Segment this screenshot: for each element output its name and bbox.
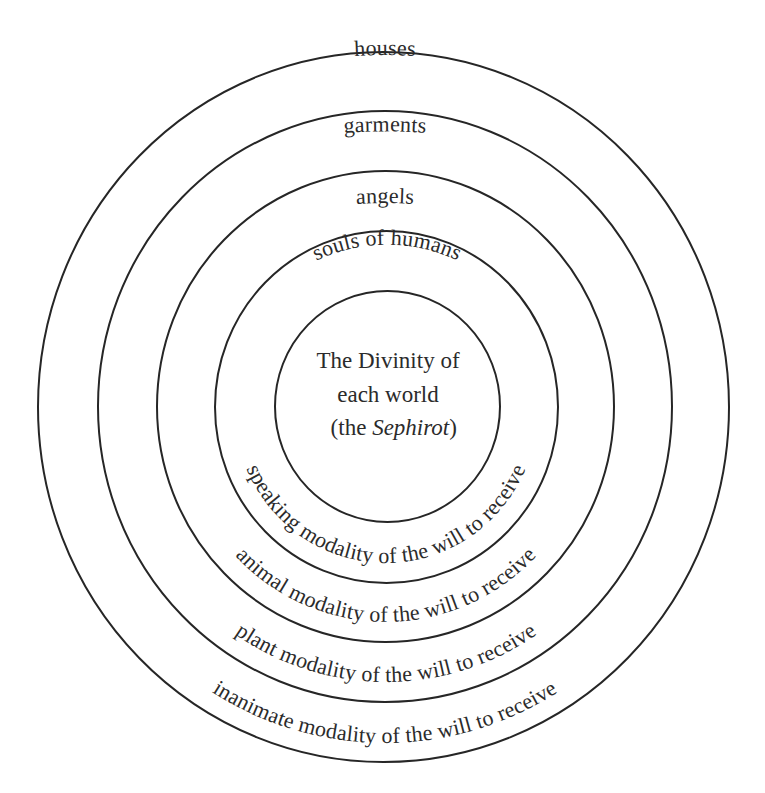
label-plant-modality: plant modality of the will to receive bbox=[0, 0, 671, 687]
label-angels-text: angels bbox=[355, 183, 415, 209]
center-line-3: (the Sephirot) bbox=[302, 415, 474, 440]
center-line-2: each world bbox=[337, 382, 439, 407]
label-garments-text: garments bbox=[342, 111, 427, 138]
center-line-1: The Divinity of bbox=[316, 348, 459, 373]
label-souls-of-humans: souls of humans bbox=[0, 0, 525, 305]
label-houses: houses bbox=[0, 0, 627, 113]
center-line-3-prefix: (the bbox=[331, 415, 373, 440]
label-angels: angels bbox=[0, 0, 547, 233]
ring-outer-houses bbox=[38, 52, 729, 762]
ring-souls-of-humans bbox=[215, 231, 558, 583]
label-speaking-modality-text: speaking modality of the will to receive bbox=[242, 460, 531, 568]
sephirot-italic: Sephirot bbox=[372, 415, 450, 440]
center-line-3-suffix: ) bbox=[449, 415, 457, 440]
label-plant-modality-text: plant modality of the will to receive bbox=[232, 617, 541, 687]
label-houses-text: houses bbox=[353, 35, 416, 61]
concentric-rings-diagram: houses garments angels souls of humans s… bbox=[0, 0, 765, 793]
label-garments: garments bbox=[0, 0, 587, 173]
label-souls-of-humans-text: souls of humans bbox=[308, 225, 466, 265]
